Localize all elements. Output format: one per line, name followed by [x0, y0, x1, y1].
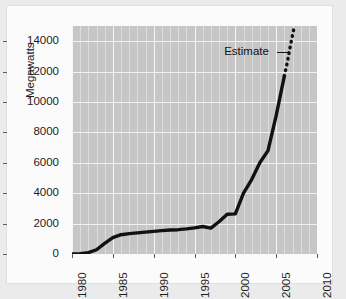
x-axis-tick-mark [317, 254, 318, 258]
estimate-leader-line [277, 52, 288, 53]
x-axis-ticks: 1980198519901995200020052010 [72, 254, 317, 299]
series-installed-capacity-line [72, 76, 284, 254]
y-axis-tick-label: 10000 [27, 96, 59, 108]
y-axis-tick-mark [3, 72, 7, 73]
chart-panel: Megawatts 020004000600080001000012000140… [7, 6, 332, 283]
y-axis-tick-mark [3, 132, 7, 133]
x-axis-tick-mark [72, 254, 73, 258]
y-axis-tick-mark [3, 193, 7, 194]
plot-area [72, 26, 317, 254]
y-axis-tick-mark [3, 254, 7, 255]
x-axis-tick-label: 2005 [281, 272, 293, 298]
y-axis-tick-label: 8000 [33, 126, 59, 138]
estimate-annotation: Estimate [224, 46, 269, 58]
x-axis-tick-label: 1995 [200, 272, 212, 298]
y-axis-tick-label: 4000 [33, 187, 59, 199]
y-axis-tick-label: 12000 [27, 66, 59, 78]
y-axis-tick-mark [3, 41, 7, 42]
x-axis-tick-mark [195, 254, 196, 258]
x-axis-tick-label: 1985 [118, 272, 130, 298]
y-axis-tick-mark [3, 102, 7, 103]
x-axis-tick-mark [235, 254, 236, 258]
y-axis-tick-mark [3, 224, 7, 225]
x-axis-tick-label: 2010 [322, 272, 334, 298]
chart-figure: Megawatts 020004000600080001000012000140… [0, 0, 346, 299]
y-axis-tick-mark [3, 163, 7, 164]
data-series-layer [72, 26, 317, 254]
x-axis-tick-mark [154, 254, 155, 258]
y-axis-tick-label: 14000 [27, 35, 59, 47]
y-axis-tick-label: 2000 [33, 218, 59, 230]
x-axis-tick-label: 1980 [77, 272, 89, 298]
x-axis-tick-label: 2000 [240, 272, 252, 298]
y-axis-ticks: 02000400060008000100001200014000 [7, 26, 68, 254]
x-axis-tick-mark [113, 254, 114, 258]
y-axis-tick-label: 0 [53, 248, 59, 260]
y-axis-tick-label: 6000 [33, 157, 59, 169]
x-axis-tick-mark [276, 254, 277, 258]
x-axis-tick-label: 1990 [159, 272, 171, 298]
